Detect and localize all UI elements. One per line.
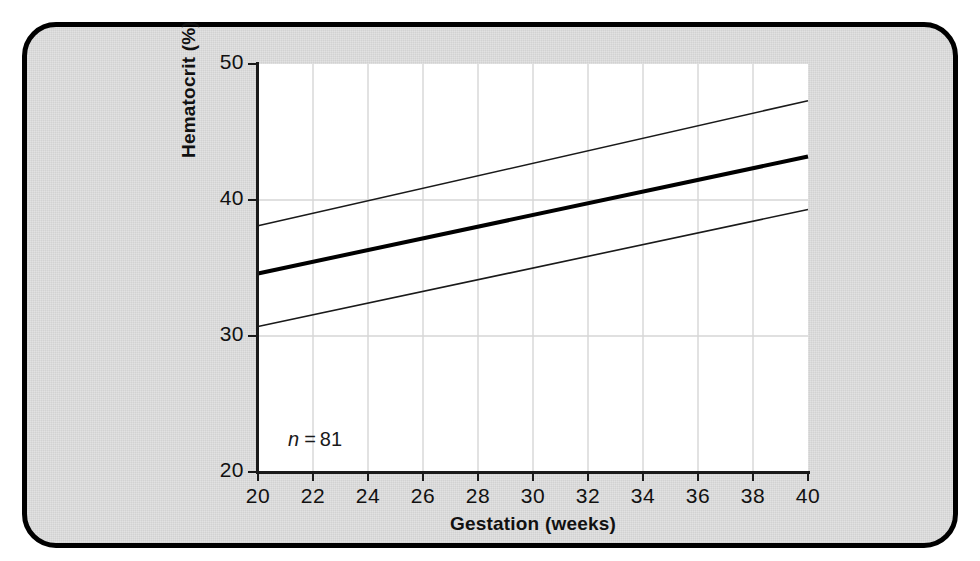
data-series-group [258, 64, 808, 472]
x-tick-label: 40 [785, 484, 831, 508]
sample-size-symbol: n [288, 428, 299, 450]
plot-area [258, 64, 808, 472]
series-line-upper [258, 101, 808, 226]
x-tick-mark [642, 472, 644, 481]
x-tick-mark [532, 472, 534, 481]
x-tick-mark [422, 472, 424, 481]
y-tick-mark [248, 199, 257, 201]
y-tick-label: 20 [182, 458, 244, 482]
x-tick-label: 22 [290, 484, 336, 508]
y-tick-label: 40 [182, 186, 244, 210]
x-tick-mark [752, 472, 754, 481]
sample-size-value: 81 [320, 428, 342, 450]
x-axis-title: Gestation (weeks) [258, 513, 808, 535]
x-tick-mark [312, 472, 314, 481]
x-tick-label: 20 [235, 484, 281, 508]
sample-size-equals: = [304, 428, 316, 450]
x-tick-label: 32 [565, 484, 611, 508]
x-tick-label: 30 [510, 484, 556, 508]
sample-size-annotation: n=81 [288, 428, 342, 451]
x-tick-mark [477, 472, 479, 481]
x-tick-mark [697, 472, 699, 481]
y-axis-title: Hematocrit (%) [178, 0, 200, 158]
y-axis-line [256, 62, 259, 474]
x-tick-label: 36 [675, 484, 721, 508]
series-line-lower [258, 210, 808, 327]
y-tick-mark [248, 335, 257, 337]
x-tick-mark [807, 472, 809, 481]
x-tick-label: 24 [345, 484, 391, 508]
x-tick-mark [257, 472, 259, 481]
x-tick-label: 38 [730, 484, 776, 508]
y-tick-mark [248, 471, 257, 473]
x-tick-mark [587, 472, 589, 481]
figure-root: 20304050 2022242628303234363840 Hematocr… [0, 0, 980, 561]
x-tick-label: 26 [400, 484, 446, 508]
x-tick-mark [367, 472, 369, 481]
y-tick-label: 30 [182, 322, 244, 346]
series-line-mean [258, 156, 808, 273]
y-tick-mark [248, 63, 257, 65]
x-tick-label: 28 [455, 484, 501, 508]
x-tick-label: 34 [620, 484, 666, 508]
